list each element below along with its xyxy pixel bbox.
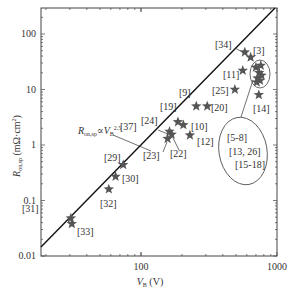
star-marker bbox=[254, 89, 264, 99]
reference-label: [5-8] bbox=[227, 132, 247, 143]
reference-label: [12] bbox=[197, 136, 214, 147]
y-axis-title: Ron,sp (mΩ·cm2) bbox=[11, 115, 23, 178]
svg-text:Ron,sp (mΩ·cm2): Ron,sp (mΩ·cm2) bbox=[11, 115, 23, 178]
reference-label: [20] bbox=[211, 102, 228, 113]
reference-label: [32] bbox=[100, 198, 117, 209]
x-tick-label: 1000 bbox=[267, 261, 287, 272]
reference-label: [29] bbox=[104, 152, 121, 163]
y-tick-label: 1 bbox=[31, 139, 36, 150]
reference-label: [19] bbox=[160, 101, 177, 112]
y-tick-label: 100 bbox=[21, 28, 36, 39]
star-marker bbox=[104, 184, 114, 194]
reference-label: [13, 26] bbox=[229, 146, 261, 157]
y-tick-label: 0.01 bbox=[19, 250, 37, 261]
star-marker bbox=[240, 47, 250, 57]
x-axis-title: VB (V) bbox=[137, 276, 164, 288]
reference-label: [25] bbox=[212, 85, 229, 96]
reference-label: [10] bbox=[191, 121, 208, 132]
reference-label: [9] bbox=[179, 87, 191, 98]
annotations: [31][33][32][30][29][23][22][37][24][10]… bbox=[22, 39, 270, 237]
reference-label: [11] bbox=[223, 69, 239, 80]
reference-label: [15-18] bbox=[235, 159, 265, 170]
svg-text:VB (V): VB (V) bbox=[137, 276, 164, 288]
x-tick-label: 100 bbox=[133, 261, 148, 272]
reference-label: [34] bbox=[215, 39, 232, 50]
reference-label: [3] bbox=[253, 45, 265, 56]
star-marker bbox=[110, 171, 120, 181]
reference-label: [31] bbox=[22, 203, 39, 214]
reference-label: [37] bbox=[120, 121, 137, 132]
chart: 0.010.1110100 1001000 Ron,sp∝VB2.5 [31][… bbox=[0, 0, 295, 292]
reference-label: [24] bbox=[141, 115, 158, 126]
reference-label: [33] bbox=[77, 226, 94, 237]
reference-label: [14] bbox=[253, 103, 270, 114]
y-tick-label: 10 bbox=[26, 84, 36, 95]
svg-text:Ron,sp∝VB2.5: Ron,sp∝VB2.5 bbox=[77, 125, 121, 137]
star-marker bbox=[191, 101, 201, 111]
reference-label: [30] bbox=[122, 173, 139, 184]
star-marker bbox=[230, 84, 240, 94]
trend-label: Ron,sp∝VB2.5 bbox=[77, 125, 151, 151]
reference-label: [22] bbox=[170, 148, 187, 159]
reference-label: [23] bbox=[143, 150, 160, 161]
trend-line bbox=[41, 8, 275, 247]
